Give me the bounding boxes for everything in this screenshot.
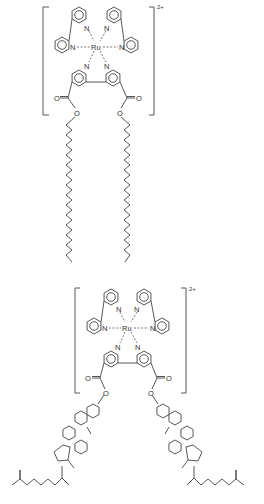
charge-label: 2+ xyxy=(189,286,196,292)
atom-n: N xyxy=(104,62,109,71)
alkyl-chain-right xyxy=(121,117,130,262)
atom-n: N xyxy=(102,324,107,333)
atom-o: O xyxy=(54,94,60,103)
atom-n: N xyxy=(84,24,89,33)
charge-label: 2+ xyxy=(157,4,164,10)
complex-top: 2+ N N N N N N Ru O O xyxy=(43,4,164,262)
atom-n: N xyxy=(84,62,89,71)
alkyl-chain-left xyxy=(66,117,75,262)
atom-o: O xyxy=(166,374,172,383)
atom-n: N xyxy=(104,24,109,33)
atom-n: N xyxy=(115,343,120,352)
chemical-structures-diagram: 2+ N N N N N N Ru O O xyxy=(0,0,264,504)
atom-ru: Ru xyxy=(91,43,101,52)
cholesteryl-left xyxy=(12,395,104,485)
atom-ru: Ru xyxy=(122,324,132,333)
atom-n: N xyxy=(150,324,155,333)
bracket-right xyxy=(149,7,154,115)
atom-n: N xyxy=(135,343,140,352)
bracket-left xyxy=(75,288,80,393)
cholesteryl-right xyxy=(152,395,244,485)
atom-o: O xyxy=(117,109,123,118)
atom-o: O xyxy=(85,374,91,383)
atom-o: O xyxy=(74,109,80,118)
complex-bottom: 2+ N N N N N N Ru O O O O xyxy=(12,286,244,485)
atom-n: N xyxy=(70,43,75,52)
bracket-right xyxy=(181,288,186,393)
atom-o: O xyxy=(136,94,142,103)
atom-o: O xyxy=(103,389,109,398)
atom-n: N xyxy=(119,43,124,52)
bracket-left xyxy=(43,7,49,115)
